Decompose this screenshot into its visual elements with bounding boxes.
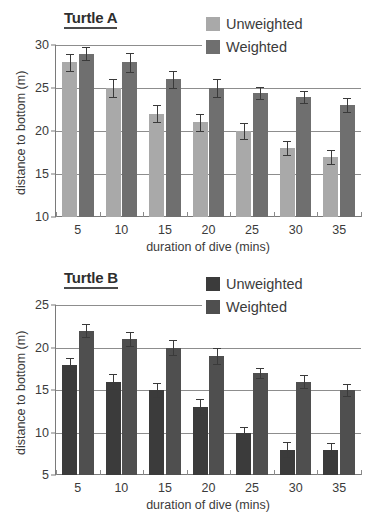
legend-swatch-unweighted-icon bbox=[206, 17, 220, 31]
error-bar-cap bbox=[300, 375, 308, 376]
error-bar-cap bbox=[196, 415, 204, 416]
x-tick-mark bbox=[317, 470, 318, 475]
x-tick-mark bbox=[100, 212, 101, 217]
x-tick-mark bbox=[274, 470, 275, 475]
legend-label-unweighted: Unweighted bbox=[226, 277, 303, 291]
x-tick-label: 20 bbox=[202, 481, 216, 495]
error-bar bbox=[113, 374, 114, 389]
y-tick-label: 25 bbox=[35, 298, 49, 312]
panel-title-turtle-a: Turtle A bbox=[64, 10, 117, 29]
error-bar bbox=[217, 348, 218, 363]
x-tick-label: 35 bbox=[332, 481, 346, 495]
error-bar-cap bbox=[283, 457, 291, 458]
error-bar bbox=[304, 375, 305, 389]
error-bar-cap bbox=[327, 443, 335, 444]
error-bar-cap bbox=[169, 355, 177, 356]
x-tick-label: 35 bbox=[332, 223, 346, 237]
bar-weighted-20 bbox=[209, 356, 224, 475]
y-tick-mark bbox=[51, 390, 56, 391]
error-bar bbox=[260, 87, 261, 99]
error-bar bbox=[287, 442, 288, 457]
bar-weighted-5 bbox=[79, 54, 94, 217]
error-bar-cap bbox=[327, 150, 335, 151]
error-bar bbox=[331, 443, 332, 457]
error-bar-cap bbox=[213, 97, 221, 98]
y-tick-label: 20 bbox=[35, 341, 49, 355]
x-tick-label: 5 bbox=[74, 481, 81, 495]
y-tick-label: 20 bbox=[35, 124, 49, 138]
bar-weighted-25 bbox=[253, 373, 268, 475]
x-tick-label: 25 bbox=[245, 481, 259, 495]
error-bar bbox=[347, 98, 348, 112]
error-bar-cap bbox=[109, 389, 117, 390]
error-bar-cap bbox=[109, 79, 117, 80]
bar-unweighted-35 bbox=[323, 157, 338, 217]
error-bar bbox=[157, 105, 158, 122]
error-bar-cap bbox=[256, 99, 264, 100]
chart-panel-turtle-b: Turtle B Unweighted Weighted 51015202551… bbox=[0, 260, 373, 520]
error-bar-cap bbox=[66, 54, 74, 55]
error-bar-cap bbox=[213, 79, 221, 80]
y-tick-label: 30 bbox=[35, 38, 49, 52]
y-tick-label: 15 bbox=[35, 167, 49, 181]
error-bar-cap bbox=[283, 442, 291, 443]
error-bar-cap bbox=[153, 105, 161, 106]
bar-unweighted-20 bbox=[193, 122, 208, 217]
error-bar bbox=[173, 340, 174, 355]
legend-label-unweighted: Unweighted bbox=[226, 17, 303, 31]
turtle-dive-figure: Turtle A Unweighted Weighted 10152025305… bbox=[0, 0, 373, 520]
y-tick-label: 25 bbox=[35, 81, 49, 95]
bar-unweighted-25 bbox=[236, 131, 251, 217]
error-bar bbox=[130, 53, 131, 72]
x-tick-mark bbox=[100, 470, 101, 475]
error-bar-cap bbox=[82, 324, 90, 325]
bar-weighted-15 bbox=[166, 348, 181, 476]
x-tick-label: 25 bbox=[245, 223, 259, 237]
y-tick-label: 5 bbox=[42, 468, 49, 482]
error-bar-cap bbox=[283, 155, 291, 156]
y-tick-mark bbox=[51, 174, 56, 175]
error-bar-cap bbox=[343, 112, 351, 113]
x-tick-label: 30 bbox=[289, 223, 303, 237]
y-tick-label: 15 bbox=[35, 383, 49, 397]
x-tick-mark bbox=[361, 470, 362, 475]
error-bar-cap bbox=[343, 384, 351, 385]
x-tick-mark bbox=[361, 212, 362, 217]
bar-weighted-35 bbox=[340, 390, 355, 475]
error-bar-cap bbox=[169, 340, 177, 341]
x-tick-label: 10 bbox=[114, 481, 128, 495]
error-bar-cap bbox=[169, 71, 177, 72]
bar-unweighted-30 bbox=[280, 148, 295, 217]
bar-weighted-30 bbox=[296, 382, 311, 476]
error-bar bbox=[287, 141, 288, 155]
error-bar-cap bbox=[196, 131, 204, 132]
error-bar-cap bbox=[153, 383, 161, 384]
x-tick-mark bbox=[317, 212, 318, 217]
error-bar-cap bbox=[82, 337, 90, 338]
x-tick-mark bbox=[230, 212, 231, 217]
gridline bbox=[56, 305, 202, 306]
x-tick-label: 15 bbox=[158, 481, 172, 495]
error-bar-cap bbox=[126, 332, 134, 333]
x-axis-title-turtle-b: duration of dive (mins) bbox=[55, 498, 361, 512]
error-bar-cap bbox=[283, 141, 291, 142]
error-bar-cap bbox=[240, 427, 248, 428]
error-bar-cap bbox=[126, 346, 134, 347]
bar-unweighted-5 bbox=[62, 62, 77, 217]
y-axis-title-turtle-a: distance to bottom (m) bbox=[14, 71, 28, 195]
bar-unweighted-15 bbox=[149, 390, 164, 475]
x-tick-label: 30 bbox=[289, 481, 303, 495]
bar-unweighted-10 bbox=[106, 88, 121, 217]
error-bar bbox=[244, 427, 245, 439]
legend-item-unweighted: Unweighted bbox=[206, 12, 303, 35]
bar-unweighted-20 bbox=[193, 407, 208, 475]
y-tick-mark bbox=[51, 131, 56, 132]
error-bar-cap bbox=[343, 396, 351, 397]
error-bar-cap bbox=[66, 71, 74, 72]
bar-unweighted-10 bbox=[106, 382, 121, 476]
bar-unweighted-15 bbox=[149, 114, 164, 217]
error-bar bbox=[304, 91, 305, 103]
bar-weighted-25 bbox=[253, 93, 268, 217]
x-tick-label: 20 bbox=[202, 223, 216, 237]
gridline bbox=[56, 348, 361, 349]
